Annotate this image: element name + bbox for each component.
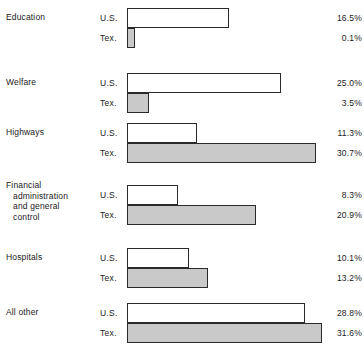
chart-row: Tex.3.5% (0, 93, 364, 113)
bar-us (127, 303, 305, 323)
chart-row: U.S.16.5% (0, 8, 364, 28)
chart-row: Tex.13.2% (0, 268, 364, 288)
value-label: 11.3% (314, 123, 362, 143)
series-label-us: U.S. (100, 73, 124, 93)
bar-tex (127, 323, 322, 343)
chart-row: Tex.31.6% (0, 323, 364, 343)
chart-row: U.S.28.8% (0, 303, 364, 323)
bar-us (127, 73, 281, 93)
series-label-tex: Tex. (100, 205, 124, 225)
value-label: 8.3% (314, 185, 362, 205)
chart-group: WelfareU.S.25.0%Tex.3.5% (0, 73, 364, 113)
bar-us (127, 8, 229, 28)
bar-tex (127, 93, 149, 113)
bar-us (127, 123, 197, 143)
series-label-us: U.S. (100, 123, 124, 143)
value-label: 25.0% (314, 73, 362, 93)
series-label-us: U.S. (100, 248, 124, 268)
series-label-tex: Tex. (100, 323, 124, 343)
value-label: 13.2% (314, 268, 362, 288)
bar-tex (127, 205, 256, 225)
chart-group: EducationU.S.16.5%Tex.0.1% (0, 8, 364, 48)
chart-row: Tex.20.9% (0, 205, 364, 225)
series-label-tex: Tex. (100, 28, 124, 48)
value-label: 0.1% (314, 28, 362, 48)
chart-row: U.S.10.1% (0, 248, 364, 268)
chart-row: U.S.8.3% (0, 185, 364, 205)
paired-bar-chart: EducationU.S.16.5%Tex.0.1%WelfareU.S.25.… (0, 0, 364, 352)
chart-row: Tex.0.1% (0, 28, 364, 48)
chart-row: U.S.25.0% (0, 73, 364, 93)
chart-row: U.S.11.3% (0, 123, 364, 143)
series-label-us: U.S. (100, 185, 124, 205)
chart-row: Tex.30.7% (0, 143, 364, 163)
bar-tex (127, 28, 135, 48)
bar-tex (127, 143, 316, 163)
value-label: 30.7% (314, 143, 362, 163)
value-label: 20.9% (314, 205, 362, 225)
value-label: 31.6% (314, 323, 362, 343)
chart-group: Financialadministrationand generalcontro… (0, 185, 364, 225)
value-label: 10.1% (314, 248, 362, 268)
chart-group: HospitalsU.S.10.1%Tex.13.2% (0, 248, 364, 288)
series-label-tex: Tex. (100, 93, 124, 113)
value-label: 3.5% (314, 93, 362, 113)
bar-us (127, 248, 189, 268)
chart-group: All otherU.S.28.8%Tex.31.6% (0, 303, 364, 343)
chart-group: HighwaysU.S.11.3%Tex.30.7% (0, 123, 364, 163)
value-label: 16.5% (314, 8, 362, 28)
series-label-us: U.S. (100, 303, 124, 323)
bar-tex (127, 268, 208, 288)
series-label-tex: Tex. (100, 268, 124, 288)
bar-us (127, 185, 178, 205)
value-label: 28.8% (314, 303, 362, 323)
series-label-us: U.S. (100, 8, 124, 28)
series-label-tex: Tex. (100, 143, 124, 163)
